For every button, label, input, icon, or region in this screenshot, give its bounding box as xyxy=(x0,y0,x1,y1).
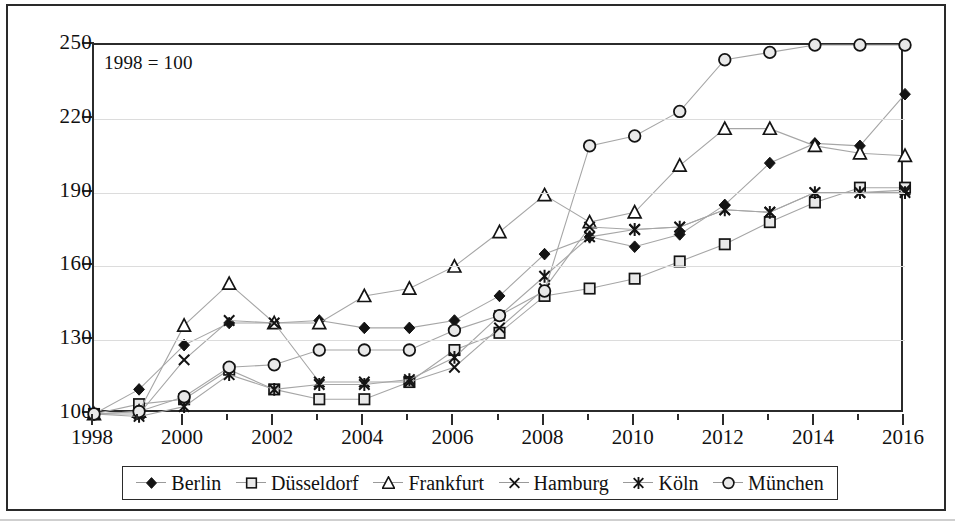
legend-item-frankfurt[interactable]: Frankfurt xyxy=(373,472,484,494)
y-axis-tick-label: 130 xyxy=(44,327,92,348)
x-axis-minor-tick xyxy=(226,414,228,420)
legend-line-sample xyxy=(499,476,529,490)
x-axis-major-tick xyxy=(271,414,273,425)
circle-marker xyxy=(584,140,596,152)
legend-item-hamburg[interactable]: Hamburg xyxy=(499,472,609,494)
circle-marker xyxy=(404,344,416,356)
diamond-filled-marker xyxy=(404,322,415,334)
square-marker xyxy=(247,478,257,488)
legend-item-düsseldorf[interactable]: Düsseldorf xyxy=(236,472,359,494)
diamond-filled-marker xyxy=(629,241,640,253)
circle-marker xyxy=(449,325,461,337)
circle-marker xyxy=(223,361,235,373)
square-marker xyxy=(720,239,730,249)
circle-marker xyxy=(539,285,551,297)
chart-figure: 100130160190220250 1998 = 100 1998200020… xyxy=(0,0,955,523)
chart-legend: BerlinDüsseldorfFrankfurtHamburgKölnMünc… xyxy=(122,466,838,500)
series-köln xyxy=(89,186,910,423)
square-marker xyxy=(675,256,685,266)
triangle-marker xyxy=(493,225,506,237)
square-marker xyxy=(245,476,258,490)
circle-marker xyxy=(359,344,371,356)
asterisk-marker xyxy=(449,351,459,364)
x-axis-major-tick xyxy=(632,414,634,425)
plot-area xyxy=(92,43,903,412)
x-axis-major-tick xyxy=(451,414,453,425)
triangle-marker xyxy=(382,476,395,490)
x-axis-major-tick xyxy=(812,414,814,425)
gridline xyxy=(94,340,905,341)
diamond-filled-marker xyxy=(359,322,370,334)
x-axis-tick-label: 2004 xyxy=(327,425,397,449)
legend-item-köln[interactable]: Köln xyxy=(623,472,698,494)
x-axis-minor-tick xyxy=(857,414,859,420)
x-axis-major-tick xyxy=(361,414,363,425)
diamond-filled-marker xyxy=(145,476,158,490)
asterisk-marker xyxy=(632,476,645,490)
x-axis-tick-label: 2002 xyxy=(237,425,307,449)
x-axis-tick-label: 1998 xyxy=(57,425,127,449)
legend-label: Hamburg xyxy=(534,472,609,494)
y-axis: 100130160190220250 xyxy=(0,0,92,369)
circle-marker xyxy=(723,478,734,489)
data-series-layer xyxy=(94,45,905,414)
circle-marker xyxy=(722,476,735,490)
legend-line-sample xyxy=(713,476,743,490)
legend-label: München xyxy=(748,472,824,494)
y-axis-tick-label: 190 xyxy=(44,180,92,201)
triangle-marker xyxy=(538,188,551,200)
square-marker xyxy=(314,394,324,404)
gridline xyxy=(94,119,905,120)
x-axis-major-tick xyxy=(91,414,93,425)
gridline xyxy=(94,193,905,194)
x-axis-tick-label: 2006 xyxy=(417,425,487,449)
triangle-marker xyxy=(673,159,686,171)
x-axis-minor-tick xyxy=(136,414,138,420)
x-axis-tick-label: 2014 xyxy=(778,425,848,449)
legend-item-münchen[interactable]: München xyxy=(713,472,824,494)
legend-item-berlin[interactable]: Berlin xyxy=(136,472,221,494)
x-axis-minor-tick xyxy=(497,414,499,420)
series-frankfurt xyxy=(88,122,912,420)
base-index-note: 1998 = 100 xyxy=(104,52,193,74)
series-line xyxy=(94,129,905,414)
circle-marker xyxy=(494,310,506,322)
square-marker xyxy=(629,274,639,284)
triangle-marker xyxy=(403,282,416,294)
x-axis-tick-label: 2016 xyxy=(868,425,938,449)
x-axis-major-tick xyxy=(542,414,544,425)
diamond-filled-marker xyxy=(147,478,157,489)
legend-line-sample xyxy=(373,476,403,490)
x-axis-labels: 1998200020022004200620082010201220142016 xyxy=(0,425,955,453)
x-axis-minor-tick xyxy=(767,414,769,420)
circle-marker xyxy=(268,359,280,371)
legend-line-sample xyxy=(136,476,166,490)
circle-marker xyxy=(764,47,776,59)
circle-marker xyxy=(178,391,190,403)
series-line xyxy=(94,94,905,414)
triangle-marker xyxy=(383,477,395,488)
x-axis-tick-label: 2000 xyxy=(147,425,217,449)
series-berlin xyxy=(89,88,911,419)
cross-x-marker xyxy=(179,355,189,365)
triangle-marker xyxy=(223,277,236,289)
circle-marker xyxy=(629,130,641,142)
gridline xyxy=(94,266,905,267)
y-axis-tick-label: 160 xyxy=(44,253,92,274)
square-marker xyxy=(584,283,594,293)
legend-line-sample xyxy=(236,476,266,490)
x-axis-tick-label: 2008 xyxy=(508,425,578,449)
legend-label: Frankfurt xyxy=(408,472,484,494)
legend-line-sample xyxy=(623,476,653,490)
circle-marker xyxy=(899,39,911,51)
y-axis-tick-label: 250 xyxy=(44,32,92,53)
legend-label: Köln xyxy=(658,472,698,494)
x-axis-tick-label: 2012 xyxy=(688,425,758,449)
x-axis-major-tick xyxy=(902,414,904,425)
circle-marker xyxy=(719,54,731,66)
y-axis-tick-label: 100 xyxy=(44,401,92,422)
x-axis-minor-tick xyxy=(587,414,589,420)
asterisk-marker xyxy=(634,477,644,489)
circle-marker xyxy=(854,39,866,51)
cross-x-marker xyxy=(508,476,521,490)
